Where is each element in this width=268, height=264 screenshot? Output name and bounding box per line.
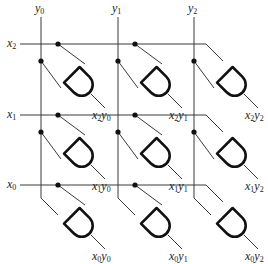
output-wire	[91, 165, 105, 179]
input-wire-x	[58, 115, 85, 135]
junction-dot	[132, 112, 137, 117]
junction-dot	[191, 58, 196, 63]
label-x1: x1	[7, 108, 16, 122]
input-wire-x	[135, 185, 162, 205]
output-label: x2y1	[169, 109, 188, 123]
input-wire-y	[118, 61, 138, 88]
input-wire-y	[194, 61, 214, 88]
junction-dot	[55, 182, 60, 187]
and-gate-cell	[191, 58, 258, 108]
wire-x0	[20, 185, 223, 202]
input-wire-y	[118, 132, 138, 159]
gate-cells	[38, 41, 258, 249]
output-wire	[168, 235, 182, 249]
junction-dot	[115, 58, 120, 63]
output-wire	[91, 235, 105, 249]
output-wire	[168, 165, 182, 179]
junction-dot	[191, 129, 196, 134]
junction-dot	[115, 129, 120, 134]
input-wire-x	[58, 185, 85, 205]
input-wire-x	[135, 115, 162, 135]
wire-x1	[20, 115, 223, 132]
wire-x2	[20, 44, 223, 61]
output-wire	[91, 94, 105, 108]
output-wire	[244, 235, 258, 249]
output-label: x1y0	[92, 180, 111, 194]
label-y0: y0	[35, 2, 44, 16]
output-wire	[244, 165, 258, 179]
label-y1: y1	[112, 2, 121, 16]
and-gate-cell	[38, 41, 105, 108]
input-wire-y	[194, 132, 214, 159]
input-wire-x	[58, 44, 85, 64]
label-x2: x2	[7, 37, 16, 51]
input-wire-y	[41, 132, 61, 159]
output-label: x2y0	[92, 109, 111, 123]
and-gate-cell	[191, 129, 258, 179]
output-label: x0y0	[92, 250, 111, 264]
junction-dot	[132, 182, 137, 187]
output-label: x0y1	[169, 250, 188, 264]
output-label: x0y2	[245, 250, 264, 264]
and-gate-cell	[115, 41, 182, 108]
junction-dot	[55, 112, 60, 117]
input-wire-x	[135, 44, 162, 64]
label-y2: y2	[188, 2, 197, 16]
and-gate-cell	[217, 208, 258, 249]
output-label: x1y2	[245, 180, 264, 194]
output-wire	[244, 94, 258, 108]
junction-dot	[132, 41, 137, 46]
output-label: x2y2	[245, 109, 264, 123]
junction-dot	[55, 41, 60, 46]
input-wire-y	[41, 61, 61, 88]
junction-dot	[38, 58, 43, 63]
junction-dot	[38, 129, 43, 134]
row-wires	[20, 44, 223, 202]
label-x0: x0	[7, 178, 16, 192]
output-label: x1y1	[169, 180, 188, 194]
output-wire	[168, 94, 182, 108]
